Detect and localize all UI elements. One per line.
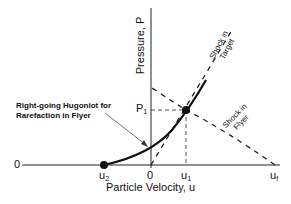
x-axis-title: Particle Velocity, u (106, 182, 195, 193)
u2-label: u2 (99, 170, 109, 182)
u2-sub: 2 (105, 175, 109, 182)
u2-point (100, 161, 108, 169)
p1-label: P1 (136, 103, 147, 115)
hugoniot-curve (104, 80, 206, 165)
hugoniot-annotation: Right-going Hugoniot for Rarefaction in … (16, 101, 111, 121)
intersection-point (182, 106, 190, 114)
origin-zero-label: 0 (147, 170, 153, 181)
hugoniot-annotation-line1: Right-going Hugoniot for (16, 101, 111, 111)
annotation-arrow-line (105, 113, 146, 145)
hugoniot-diagram: Pressure, P Particle Velocity, u 0 0 u2 … (0, 0, 291, 204)
u1-sub: 1 (187, 175, 191, 182)
left-zero-label: 0 (14, 159, 20, 170)
uf-sub: f (276, 175, 278, 182)
hugoniot-annotation-line2: Rarefaction in Flyer (16, 111, 111, 121)
p1-sub: 1 (143, 108, 147, 115)
shock-in-flyer-curve (152, 88, 275, 165)
uf-label: uf (270, 170, 278, 182)
y-axis-title: Pressure, P (135, 6, 146, 86)
u1-label: u1 (181, 170, 191, 182)
annotation-arrow-head (141, 140, 148, 147)
